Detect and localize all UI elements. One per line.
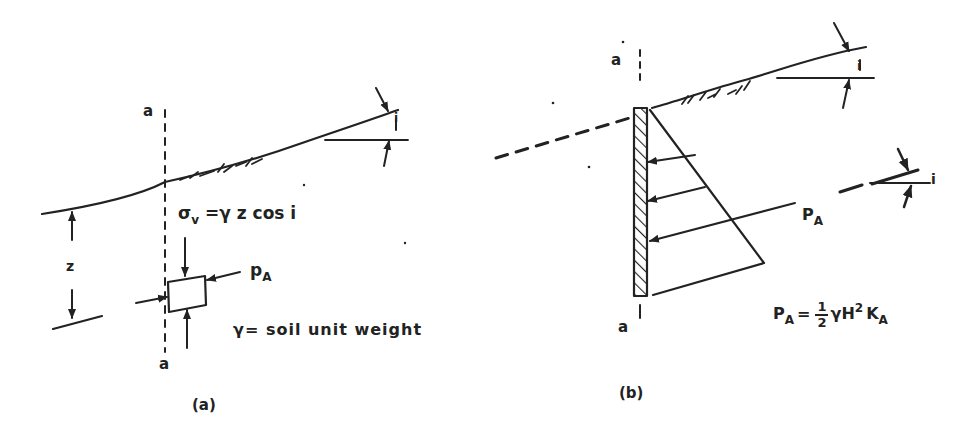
earth-pressure-figure: a a z i σv =γ z cos i pA γ= soil unit we… xyxy=(0,0,973,434)
slope-angle-label: i xyxy=(394,112,398,124)
section-label-a-top: a xyxy=(143,104,153,119)
panel-b-drawing xyxy=(496,23,930,318)
section-label-a-bottom: a xyxy=(618,320,628,335)
caption-a: (a) xyxy=(192,398,216,413)
caption-b: (b) xyxy=(619,386,643,401)
soil-element xyxy=(168,276,206,312)
formula-equals: = xyxy=(797,304,810,323)
active-force-formula: PA=12γH2KA xyxy=(773,300,888,329)
depth-label-z: z xyxy=(66,259,74,273)
retaining-wall xyxy=(634,108,647,296)
unit-weight-legend: γ= soil unit weight xyxy=(233,322,422,338)
pa-arrow-right xyxy=(207,272,240,280)
sigma-symbol: σ xyxy=(178,203,191,223)
ground-surface-line xyxy=(42,110,398,214)
angle-arrow-top xyxy=(376,88,388,111)
section-label-a-bottom: a xyxy=(159,357,169,372)
depth-base-line xyxy=(53,316,102,329)
soil-hatch-marks xyxy=(682,81,750,104)
formula-gamma-h: γH xyxy=(830,304,854,323)
slope-angle-label: i xyxy=(857,59,861,72)
dashed-extension-line xyxy=(496,117,633,158)
force-direction-line xyxy=(872,170,918,184)
force-angle-arrow-top xyxy=(898,149,908,170)
formula-lhs: P xyxy=(773,304,785,323)
pressure-arrow-2 xyxy=(648,187,705,201)
angle-arrow-top xyxy=(834,23,849,51)
formula-lhs-sub: A xyxy=(785,313,794,327)
diagram-drawing xyxy=(0,0,973,434)
formula-k-sub: A xyxy=(879,313,888,327)
formula-exponent: 2 xyxy=(855,301,863,315)
fraction-denominator: 2 xyxy=(815,316,828,330)
resultant-label-pa: PA xyxy=(802,207,823,223)
angle-arrow-bottom xyxy=(384,141,389,166)
sigma-subscript: v xyxy=(191,213,199,227)
pa-subscript: A xyxy=(814,214,823,228)
section-label-a-top: a xyxy=(611,53,621,68)
angle-arrow-bottom xyxy=(843,80,849,108)
pressure-label-pa: pA xyxy=(250,262,271,279)
pa-symbol: p xyxy=(250,260,262,280)
force-angle-arrow-bottom xyxy=(904,186,911,207)
vertical-stress-equation: σv =γ z cos i xyxy=(178,205,296,222)
fraction-numerator: 1 xyxy=(815,300,828,316)
pa-subscript: A xyxy=(262,270,271,284)
stress-rhs: =γ z cos i xyxy=(199,203,296,223)
formula-k: K xyxy=(866,304,878,323)
force-direction-dash xyxy=(840,185,862,192)
pa-symbol: P xyxy=(802,205,814,224)
pressure-distribution-triangle xyxy=(650,110,764,295)
soil-hatch-marks xyxy=(180,158,262,180)
formula-fraction: 12 xyxy=(815,300,828,329)
force-angle-label: i xyxy=(931,172,936,186)
pa-arrow-left xyxy=(136,297,167,303)
